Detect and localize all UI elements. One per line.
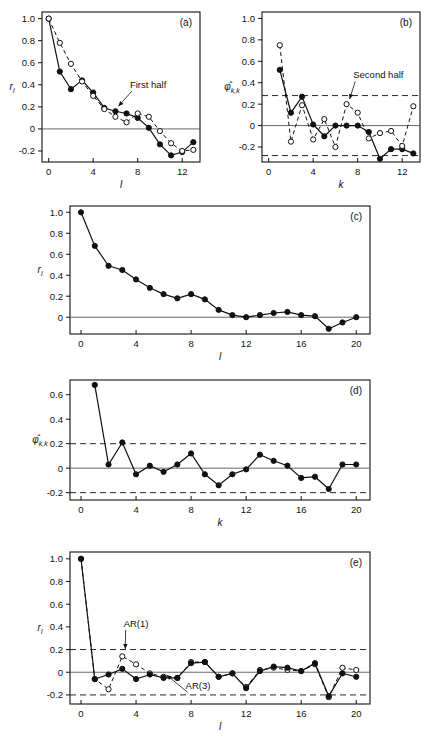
data-point-filled (78, 210, 83, 215)
plot-frame (70, 206, 370, 334)
data-point-filled (271, 458, 276, 463)
series-line (280, 70, 414, 159)
data-point-filled (168, 153, 173, 158)
y-tick-label: 0.2 (50, 644, 63, 655)
data-point-filled (216, 483, 221, 488)
data-point-filled (388, 147, 393, 152)
data-point-filled (124, 111, 129, 116)
panel-e: -0.200.20.40.60.81.0048121620lrl(e)AR(1)… (0, 540, 441, 745)
data-point-open (113, 114, 118, 119)
data-point-filled (312, 661, 317, 666)
y-tick-label: 0.2 (50, 438, 63, 449)
annotation-label: AR(3) (186, 680, 211, 691)
data-point-filled (257, 669, 262, 674)
data-point-filled (216, 307, 221, 312)
data-point-open (106, 687, 111, 692)
data-point-filled (271, 664, 276, 669)
y-tick-label: 1.0 (50, 207, 63, 218)
data-point-filled (191, 140, 196, 145)
y-axis-label: φ̂k,k (224, 81, 240, 94)
x-axis-label: l (219, 351, 222, 362)
data-point-open (340, 665, 345, 670)
x-tick-label: 16 (296, 708, 307, 719)
y-tick-label: 1.0 (22, 13, 35, 24)
y-tick-label: 0 (58, 667, 63, 678)
y-tick-label: 0.6 (22, 57, 35, 68)
data-point-open (146, 114, 151, 119)
data-point-open (355, 110, 360, 115)
annotation-arrowhead (123, 644, 127, 649)
y-axis-label: rl (10, 81, 15, 94)
panel-d-plot: -0.200.20.40.6048121620kφ̂k,k(d) (0, 368, 441, 540)
data-point-open (354, 667, 359, 672)
annotation-label: Second half (353, 69, 404, 80)
x-axis-label: k (339, 179, 345, 190)
data-point-filled (354, 674, 359, 679)
data-point-filled (326, 486, 331, 491)
y-tick-label: 0 (58, 312, 63, 323)
annotation-label: AR(1) (124, 618, 149, 629)
x-tick-label: 4 (311, 166, 316, 177)
data-point-filled (340, 671, 345, 676)
y-tick-label: 0.4 (50, 414, 63, 425)
y-tick-label: -0.2 (239, 141, 255, 152)
data-point-filled (146, 125, 151, 130)
panel-e-plot: -0.200.20.40.60.81.0048121620lrl(e)AR(1)… (0, 540, 441, 745)
data-point-filled (92, 676, 97, 681)
data-point-filled (366, 129, 371, 134)
y-tick-label: 0.6 (242, 56, 255, 67)
y-tick-label: 0.4 (242, 77, 255, 88)
x-tick-label: 12 (241, 338, 252, 349)
data-point-filled (333, 123, 338, 128)
data-point-open (168, 141, 173, 146)
panel-id-label: (b) (400, 17, 412, 28)
x-tick-label: 16 (296, 504, 307, 515)
data-point-filled (355, 123, 360, 128)
panel-id-label: (d) (350, 385, 362, 396)
panel-c: 00.20.40.60.81.0048121620lrl(c) (0, 196, 441, 368)
data-point-filled (120, 666, 125, 671)
y-tick-label: 1.0 (242, 13, 255, 24)
y-tick-label: 0.4 (50, 621, 63, 632)
data-point-open (120, 654, 125, 659)
y-tick-label: 0.4 (22, 79, 35, 90)
y-tick-label: 0 (30, 123, 35, 134)
data-point-filled (271, 310, 276, 315)
data-point-filled (377, 156, 382, 161)
data-point-open (157, 129, 162, 134)
data-point-filled (299, 313, 304, 318)
x-tick-label: 0 (78, 338, 83, 349)
y-tick-label: 1.0 (50, 553, 63, 564)
data-point-filled (106, 672, 111, 677)
y-tick-label: 0.6 (50, 389, 63, 400)
data-point-filled (354, 315, 359, 320)
data-point-filled (326, 693, 331, 698)
data-point-open (277, 43, 282, 48)
data-point-filled (202, 297, 207, 302)
data-point-open (91, 93, 96, 98)
y-tick-label: 0.2 (50, 291, 63, 302)
y-tick-label: 0.4 (50, 270, 63, 281)
x-tick-label: 0 (78, 504, 83, 515)
data-point-filled (285, 665, 290, 670)
x-tick-label: 8 (188, 708, 193, 719)
panel-a-plot: -0.200.20.40.60.81.004812lrl(a)First hal… (0, 0, 220, 195)
annotation-arrowhead (349, 94, 353, 99)
data-point-open (400, 143, 405, 148)
data-point-filled (216, 674, 221, 679)
y-tick-label: 0 (250, 120, 255, 131)
panel-id-label: (c) (350, 211, 362, 222)
data-point-filled (189, 661, 194, 666)
data-point-open (299, 103, 304, 108)
panel-id-label: (a) (180, 17, 192, 28)
data-point-open (322, 117, 327, 122)
data-point-filled (92, 243, 97, 248)
x-tick-label: 4 (91, 166, 96, 177)
y-tick-label: -0.2 (19, 145, 35, 156)
data-point-open (191, 147, 196, 152)
data-point-filled (189, 451, 194, 456)
data-point-filled (244, 686, 249, 691)
data-point-filled (230, 472, 235, 477)
data-point-open (57, 40, 62, 45)
x-tick-label: 8 (188, 338, 193, 349)
